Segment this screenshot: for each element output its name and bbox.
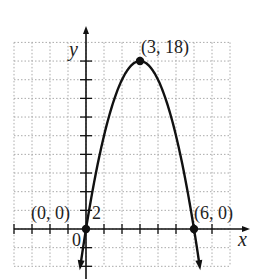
- origin-label: 0: [72, 230, 81, 250]
- point-label-root: (6, 0): [194, 203, 233, 224]
- y-tick-label-2: 2: [92, 203, 101, 223]
- point-marker-2: [190, 225, 198, 233]
- point-marker-0: [82, 225, 90, 233]
- point-label-vertex: (3, 18): [141, 37, 189, 58]
- curve-right-arrow-icon: [195, 260, 202, 270]
- y-axis-label: y: [67, 38, 78, 61]
- y-axis-arrow-icon: [83, 26, 89, 34]
- labels: y x 2 0 (0, 0) (3, 18) (6, 0): [31, 37, 247, 250]
- parabola-chart: y x 2 0 (0, 0) (3, 18) (6, 0): [0, 0, 262, 279]
- point-marker-1: [136, 57, 144, 65]
- curve-left-arrow-icon: [78, 260, 85, 270]
- point-label-origin: (0, 0): [31, 203, 70, 224]
- x-axis-label: x: [237, 228, 247, 250]
